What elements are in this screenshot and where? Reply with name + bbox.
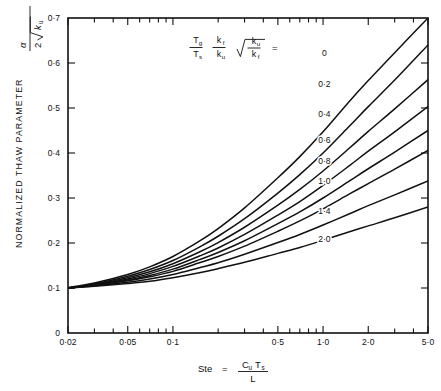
curve-0-8 bbox=[68, 131, 428, 289]
curve-0-2 bbox=[68, 45, 428, 288]
curve-label-1-0: 1·0 bbox=[318, 176, 331, 186]
curve-label-0-8: 0·8 bbox=[318, 156, 331, 166]
x-caption-numerator-a-sub: u bbox=[249, 364, 253, 371]
curve-label-0-6: 0·6 bbox=[318, 135, 331, 145]
curve-0 bbox=[68, 18, 428, 288]
x-caption-denominator: L bbox=[250, 373, 255, 384]
y-tick-label: 0·3 bbox=[48, 193, 61, 203]
y-tick-label: 0·1 bbox=[48, 283, 61, 293]
curve-label-1-4: 1·4 bbox=[318, 206, 331, 216]
y-tick-label: 0·4 bbox=[48, 148, 61, 158]
legend-formula: TgTskfkukukf= bbox=[190, 35, 279, 60]
x-axis-caption: Ste=CuTsL bbox=[198, 359, 268, 384]
curve-1-0 bbox=[68, 150, 428, 288]
y-formula-numerator: α bbox=[17, 42, 28, 48]
curve-label-2-0: 2·0 bbox=[318, 234, 331, 244]
curve-1-4 bbox=[68, 181, 428, 288]
legend-sqrt-inner-denominator: k bbox=[252, 49, 257, 59]
legend-T-ratio-denominator-sub: s bbox=[199, 53, 202, 60]
legend-sqrt-inner-denominator-sub: f bbox=[258, 53, 260, 60]
curves-group bbox=[68, 18, 428, 288]
curve-0-4 bbox=[68, 80, 428, 288]
figure-root: 0·020·050·10·51·02·05·000·10·20·30·40·50… bbox=[0, 0, 441, 391]
y-tick-label: 0·5 bbox=[48, 103, 61, 113]
x-caption-numerator-b-sub: s bbox=[262, 364, 265, 371]
y-tick-label: 0 bbox=[55, 328, 60, 338]
x-tick-label: 0·02 bbox=[59, 337, 76, 347]
legend-k-ratio-numerator: k bbox=[217, 35, 222, 45]
plot-frame bbox=[68, 18, 428, 333]
legend-k-ratio-numerator-sub: f bbox=[223, 39, 225, 46]
x-tick-label: 0·05 bbox=[119, 337, 136, 347]
y-axis-formula: α2ku bbox=[17, 6, 44, 51]
y-formula-denominator-coef: 2 bbox=[32, 43, 43, 48]
x-caption-symbol: Ste bbox=[198, 363, 212, 374]
thaw-parameter-chart: 0·020·050·10·51·02·05·000·10·20·30·40·50… bbox=[0, 0, 441, 391]
curve-label-0-2: 0·2 bbox=[318, 79, 331, 89]
x-tick-label: 5·0 bbox=[422, 337, 435, 347]
y-formula-radicand-sub: u bbox=[37, 20, 44, 24]
legend-k-ratio-denominator-sub: u bbox=[222, 53, 226, 60]
legend-equals: = bbox=[272, 42, 278, 53]
x-tick-label: 0·1 bbox=[167, 337, 180, 347]
legend-sqrt-inner-numerator-sub: u bbox=[257, 40, 261, 47]
x-tick-label: 0·5 bbox=[272, 337, 285, 347]
y-tick-label: 0·2 bbox=[48, 238, 61, 248]
x-tick-label: 1·0 bbox=[317, 337, 330, 347]
legend-T-ratio-numerator-sub: g bbox=[199, 39, 203, 46]
curve-label-0: 0 bbox=[322, 48, 327, 58]
x-tick-label: 2·0 bbox=[362, 337, 375, 347]
y-axis-title: NORMALIZED THAW PARAMETER bbox=[14, 78, 24, 248]
y-tick-label: 0·6 bbox=[48, 58, 61, 68]
y-tick-label: 0·7 bbox=[48, 13, 61, 23]
x-caption-equals: = bbox=[222, 363, 228, 374]
curve-label-0-4: 0·4 bbox=[318, 109, 331, 119]
x-caption-numerator-b: T bbox=[255, 359, 261, 370]
